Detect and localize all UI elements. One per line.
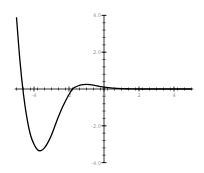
plot-area: -4-20244.02.0-2.0-4.0 <box>0 0 204 173</box>
x-tick-label: 2 <box>137 92 140 98</box>
y-tick-label: -2.0 <box>91 123 101 129</box>
x-tick-label: 0 <box>102 92 105 98</box>
x-tick-label: 4 <box>172 92 175 98</box>
y-tick-label: 2.0 <box>93 49 101 55</box>
y-tick-label: 4.0 <box>93 12 101 18</box>
y-tick-label: -4.0 <box>91 160 101 166</box>
x-tick-label: -4 <box>32 92 37 98</box>
